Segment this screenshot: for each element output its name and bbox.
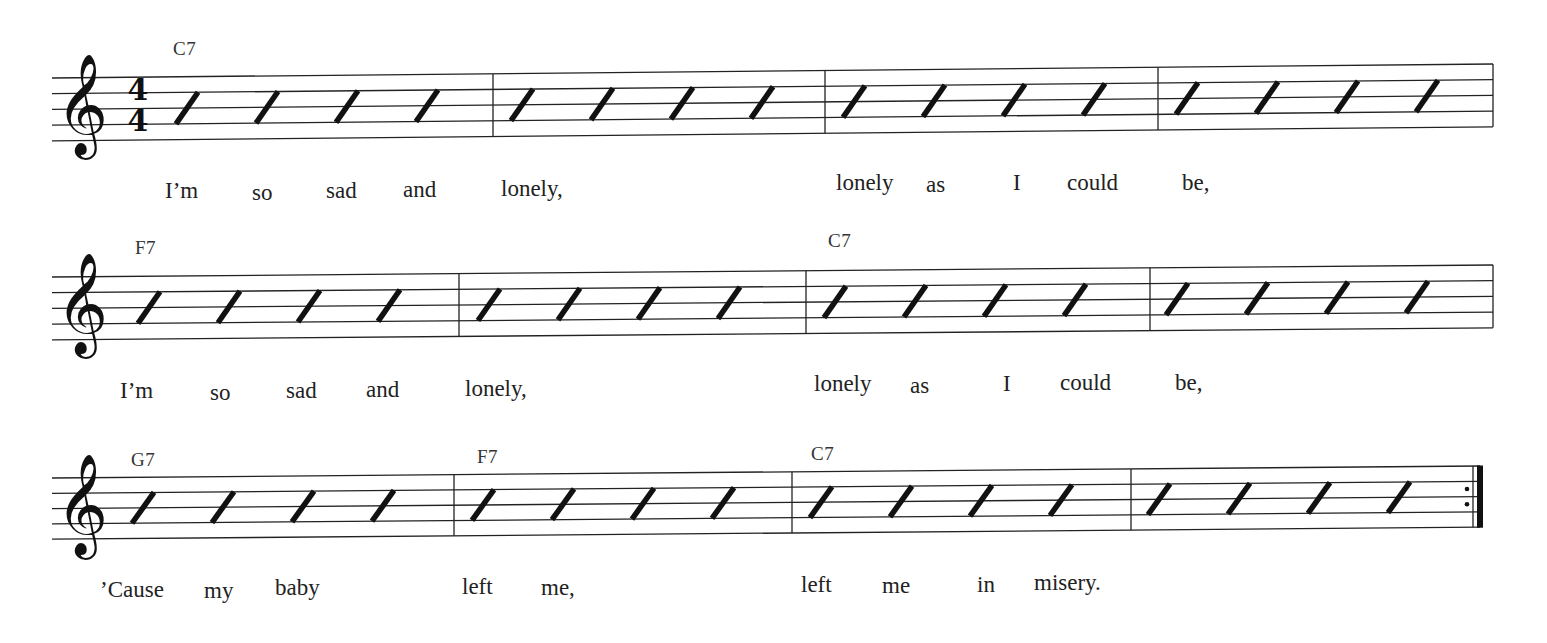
lyric-word: lonely xyxy=(836,170,894,196)
chord-symbol: F7 xyxy=(477,446,498,468)
lyric-word: left xyxy=(462,574,493,600)
lyric-word: so xyxy=(210,380,230,406)
lyric-word: so xyxy=(252,180,272,206)
treble-clef-icon: 𝄞 xyxy=(56,444,108,564)
repeat-dot xyxy=(1465,487,1470,492)
lyric-word: I’m xyxy=(165,178,198,204)
lyric-word: as xyxy=(910,373,929,399)
staff-line xyxy=(52,512,1480,524)
staff-line xyxy=(52,328,1493,340)
lyric-word: baby xyxy=(275,575,320,601)
staff-line xyxy=(52,312,1493,324)
lyric-word: I xyxy=(1013,170,1021,196)
lyric-word: my xyxy=(204,578,233,604)
lyric-word: sad xyxy=(286,378,317,404)
time-signature-bottom: 4 xyxy=(126,108,150,134)
lyric-word: I xyxy=(1003,371,1011,397)
staff-line xyxy=(52,281,1493,293)
lyric-word: lonely, xyxy=(465,376,527,402)
staff-line xyxy=(52,527,1480,539)
lyric-word: and xyxy=(366,377,399,403)
lyric-word: could xyxy=(1060,370,1111,396)
treble-clef-icon: 𝄞 xyxy=(56,243,108,363)
staff-line xyxy=(52,497,1480,509)
lyric-word: as xyxy=(926,172,945,198)
staff-line xyxy=(52,64,1493,78)
staff-line xyxy=(52,481,1480,493)
staff-layer xyxy=(0,0,1547,643)
lyric-word: be, xyxy=(1182,170,1209,196)
lyric-word: lonely, xyxy=(501,176,563,202)
lyric-word: could xyxy=(1067,170,1118,196)
lyric-word: me, xyxy=(541,575,575,601)
treble-clef-icon: 𝄞 xyxy=(56,44,108,164)
repeat-dot xyxy=(1465,502,1470,507)
lyric-word: be, xyxy=(1175,370,1202,396)
staff-line xyxy=(52,111,1493,125)
time-signature-top: 4 xyxy=(126,77,150,103)
lyric-word: misery. xyxy=(1034,570,1101,596)
staff-line xyxy=(52,466,1480,478)
chord-symbol: F7 xyxy=(135,237,156,259)
lyric-word: left xyxy=(801,572,832,598)
lead-sheet: 𝄞44C7I’msosadandlonely,lonelyasIcouldbe,… xyxy=(0,0,1547,643)
lyric-word: lonely xyxy=(814,371,872,397)
chord-symbol: C7 xyxy=(811,443,834,465)
staff-line xyxy=(52,265,1493,277)
barline-thick xyxy=(1477,466,1483,528)
chord-symbol: G7 xyxy=(131,449,155,471)
chord-symbol: C7 xyxy=(173,38,196,60)
lyric-word: in xyxy=(977,572,995,598)
lyric-word: sad xyxy=(326,178,357,204)
chord-symbol: C7 xyxy=(828,230,851,252)
lyric-word: ’Cause xyxy=(100,577,164,603)
lyric-word: and xyxy=(403,177,436,203)
lyric-word: me xyxy=(882,573,910,599)
time-signature: 44 xyxy=(126,77,150,134)
lyric-word: I’m xyxy=(120,378,153,404)
staff-line xyxy=(52,296,1493,308)
staff-line xyxy=(52,127,1493,141)
